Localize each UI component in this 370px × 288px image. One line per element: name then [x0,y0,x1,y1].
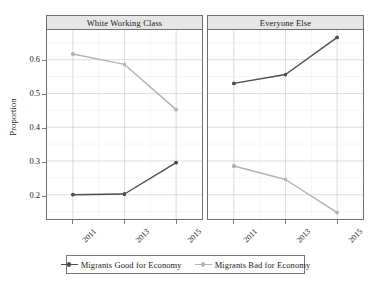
legend-label: Migrants Good for Economy [81,260,182,270]
legend-label: Migrants Bad for Economy [215,260,311,270]
legend-dot [201,262,206,267]
x-tick-label: 2013 [294,227,312,245]
x-tick-mark [72,220,73,224]
data-point-marker [232,82,236,86]
x-axis-panel: 201120132015 [46,220,203,260]
y-tick-label: 0.2 [29,190,40,200]
facet-strip-label: White Working Class [46,15,203,30]
x-tick-mark [176,220,177,224]
facet-panel: Everyone Else [207,15,364,220]
data-point-marker [71,52,75,56]
legend-dot [67,262,72,267]
x-axis-panel: 201120132015 [207,220,364,260]
x-tick-label: 2013 [133,227,151,245]
x-tick-mark [233,220,234,224]
facet-panel: White Working Class [46,15,203,220]
data-point-marker [123,192,127,196]
data-point-marker [335,36,339,40]
y-tick-label: 0.4 [29,122,40,132]
x-tick-mark [124,220,125,224]
x-tick-label: 2011 [242,227,259,244]
data-point-marker [232,164,236,168]
x-tick-label: 2015 [347,227,365,245]
facet-plot-area [207,30,364,220]
y-tick-label: 0.5 [29,88,40,98]
y-axis: 0.20.30.40.50.6 [0,0,46,288]
legend-key-icon [61,260,78,269]
chart-legend: Migrants Good for EconomyMigrants Bad fo… [66,255,305,274]
facet-plot-area [46,30,203,220]
legend-item[interactable]: Migrants Bad for Economy [195,260,311,270]
legend-key-icon [195,260,212,269]
x-tick-label: 2011 [81,227,98,244]
x-axis: 201120132015201120132015 [46,220,364,260]
x-tick-label: 2015 [186,227,204,245]
y-tick-label: 0.6 [29,54,40,64]
legend-item[interactable]: Migrants Good for Economy [61,260,182,270]
x-tick-mark [285,220,286,224]
facet-strip-label: Everyone Else [207,15,364,30]
y-tick-label: 0.3 [29,156,40,166]
facet-panels: White Working ClassEveryone Else [46,15,364,220]
faceted-line-chart: Proportion 0.20.30.40.50.6 White Working… [0,0,370,288]
x-tick-mark [337,220,338,224]
